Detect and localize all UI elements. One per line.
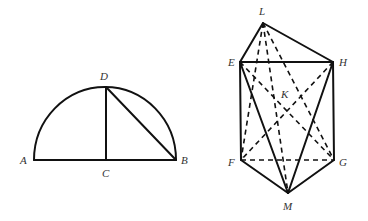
segment-ef xyxy=(240,62,241,160)
segment-em xyxy=(240,62,288,193)
segment-hm xyxy=(288,62,333,193)
segment-hg xyxy=(333,62,334,160)
segment-gm xyxy=(288,160,334,193)
label-f: F xyxy=(227,156,235,168)
label-b: B xyxy=(181,154,188,166)
label-e: E xyxy=(227,56,235,68)
label-k: K xyxy=(280,88,289,100)
label-c: C xyxy=(102,167,110,179)
label-a: A xyxy=(19,154,27,166)
solid-figure: L E H K F G M xyxy=(227,5,348,212)
label-m: M xyxy=(282,200,293,212)
geometry-diagram: A B C D L E H K F G M xyxy=(0,0,368,221)
label-d: D xyxy=(99,70,108,82)
label-l: L xyxy=(258,5,265,17)
semicircle-figure: A B C D xyxy=(19,70,188,179)
label-h: H xyxy=(338,56,348,68)
label-g: G xyxy=(339,156,347,168)
